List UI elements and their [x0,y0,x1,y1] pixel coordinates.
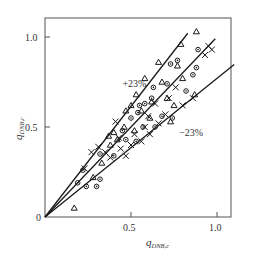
circle-marker-dot [77,182,79,184]
annotation-plus-23: +23% [122,78,146,89]
cross-marker [113,119,119,125]
circle-marker-dot [171,117,173,119]
cross-marker [173,84,179,90]
circle-marker-dot [125,139,127,141]
triangle-marker [71,205,77,210]
y-axis-label: qDNB,r [12,117,25,140]
y-tick-label: 1.0 [25,32,38,43]
x-tick-label: 1.0 [209,222,222,233]
circle-marker-dot [137,112,139,114]
cross-marker [180,102,186,108]
triangle-marker [99,160,105,165]
x-axis-label-sub: DNB,c [151,242,170,249]
circle-marker-dot [151,97,153,99]
reference-lines [45,33,234,217]
triangle-marker [133,92,139,97]
reference-line [45,33,188,217]
cross-marker [190,95,196,101]
cross-marker [118,146,124,152]
circle-marker-dot [196,67,198,69]
circle-marker-dot [99,153,101,155]
triangle-marker [180,75,186,80]
circle-marker-dot [166,83,168,85]
circle-marker-dot [130,117,132,119]
circle-marker-dot [192,74,194,76]
scatter-chart: 0.51.00.51.0 0 +23% −23% qDNB,c qDNB,r [0,0,262,261]
annotation-minus-23: −23% [179,127,203,138]
data-markers [71,29,215,211]
triangle-marker [107,142,113,147]
cross-marker [202,52,208,58]
circle-marker-dot [96,186,98,188]
svg-text:qDNB,r: qDNB,r [12,117,25,140]
circle-marker-dot [144,103,146,105]
origin-label: 0 [36,212,41,223]
circle-marker-dot [85,186,87,188]
y-axis-label-sub: DNB,r [18,117,25,136]
circle-marker-dot [153,87,155,89]
triangle-marker [159,79,165,84]
cross-marker [123,153,129,159]
triangle-marker [171,102,177,107]
circle-marker-dot [122,130,124,132]
circle-marker-dot [99,178,101,180]
circle-marker-dot [139,105,141,107]
triangle-marker [156,59,162,64]
triangle-marker [174,63,180,68]
y-tick-label: 0.5 [25,122,38,133]
x-axis-label: qDNB,c [146,236,169,249]
circle-marker-dot [177,60,179,62]
circle-marker-dot [170,63,172,65]
circle-marker-dot [135,141,137,143]
cross-marker [209,47,215,53]
circle-marker-dot [185,90,187,92]
triangle-marker [193,29,199,34]
circle-marker-dot [197,49,199,51]
cross-marker [88,149,94,155]
cross-marker [131,131,137,137]
x-tick-label: 0.5 [123,222,136,233]
svg-text:qDNB,c: qDNB,c [146,236,169,249]
